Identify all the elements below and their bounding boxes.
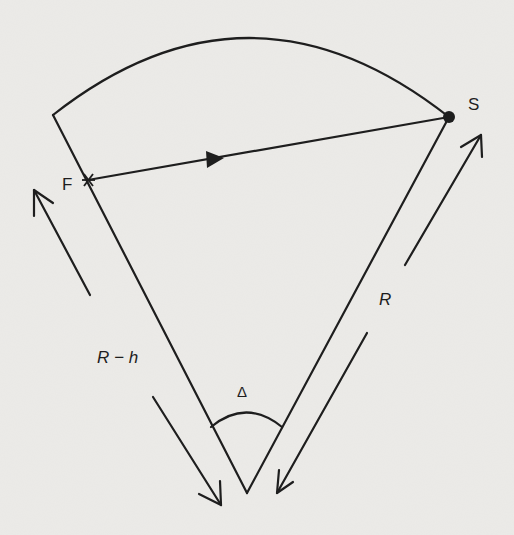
label-delta: Δ [237,383,247,400]
geometry-diagram: F S R R − h Δ [0,0,514,535]
label-r: R [379,290,391,309]
label-s: S [468,95,479,114]
paper-texture [0,0,514,535]
label-r-minus-h: R − h [97,348,138,367]
label-f: F [62,175,72,194]
receiver-point-dot [443,111,455,123]
